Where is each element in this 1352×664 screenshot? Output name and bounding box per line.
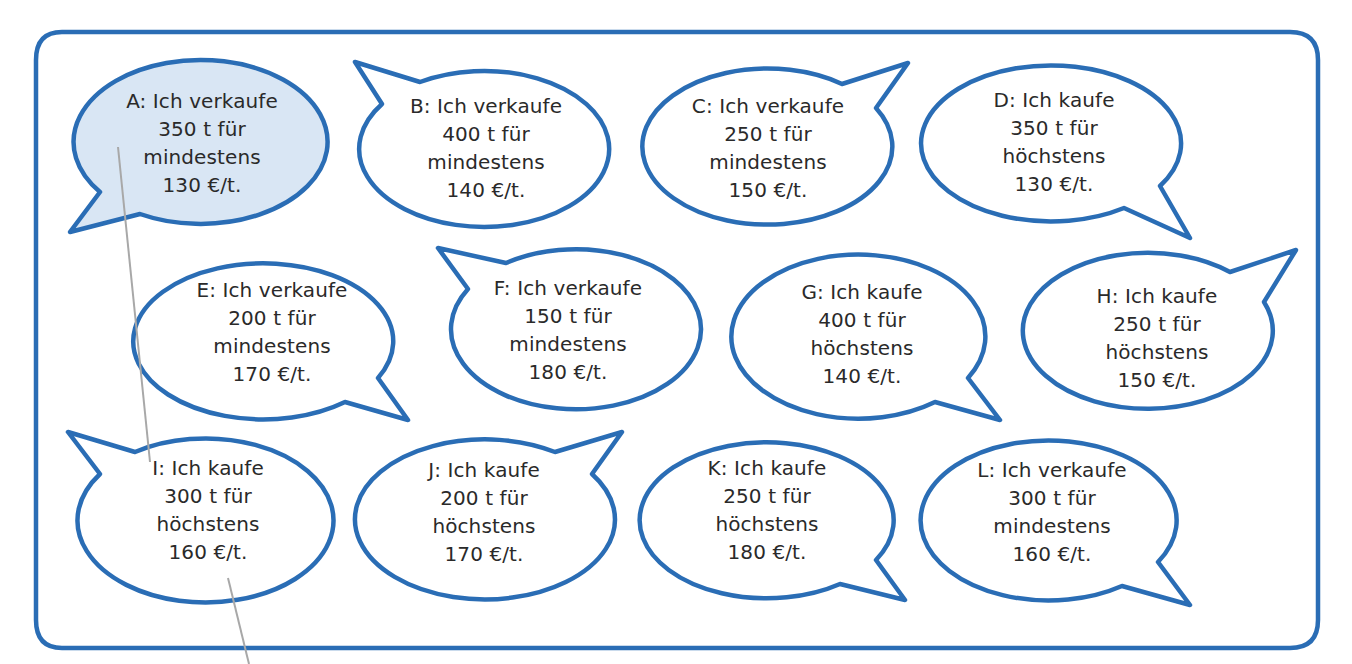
bubble-a-price: 130 €/t. xyxy=(126,171,278,199)
bubble-e-amount: 200 t für xyxy=(196,304,347,332)
bubble-f-qualifier: mindestens xyxy=(494,330,642,358)
bubble-g-qualifier: höchstens xyxy=(801,334,922,362)
bubble-a-label: A: Ich verkaufe xyxy=(126,87,278,115)
bubble-f-label: F: Ich verkaufe xyxy=(494,274,642,302)
bubble-g-label: G: Ich kaufe xyxy=(801,278,922,306)
bubble-i-price: 160 €/t. xyxy=(152,538,264,566)
bubble-g-text: G: Ich kaufe 400 t für höchstens 140 €/t… xyxy=(801,278,922,390)
bubble-k-text: K: Ich kaufe 250 t für höchstens 180 €/t… xyxy=(708,454,827,566)
bubble-b-label: B: Ich verkaufe xyxy=(410,92,562,120)
bubble-i-qualifier: höchstens xyxy=(152,510,264,538)
bubble-e-qualifier: mindestens xyxy=(196,332,347,360)
bubble-b-amount: 400 t für xyxy=(410,120,562,148)
bubble-h-qualifier: höchstens xyxy=(1097,338,1218,366)
bubble-k-label: K: Ich kaufe xyxy=(708,454,827,482)
bubble-j-price: 170 €/t. xyxy=(428,540,540,568)
bubble-d-label: D: Ich kaufe xyxy=(993,86,1114,114)
bubble-l-amount: 300 t für xyxy=(977,484,1127,512)
bubble-f-text: F: Ich verkaufe 150 t für mindestens 180… xyxy=(494,274,642,386)
bubble-j-qualifier: höchstens xyxy=(428,512,540,540)
bubble-b-qualifier: mindestens xyxy=(410,148,562,176)
bubble-h-price: 150 €/t. xyxy=(1097,366,1218,394)
bubble-e-price: 170 €/t. xyxy=(196,360,347,388)
bubble-g-price: 140 €/t. xyxy=(801,362,922,390)
bubble-i-amount: 300 t für xyxy=(152,482,264,510)
bubble-d-amount: 350 t für xyxy=(993,114,1114,142)
bubble-e-label: E: Ich verkaufe xyxy=(196,276,347,304)
bubble-c-text: C: Ich verkaufe 250 t für mindestens 150… xyxy=(692,92,844,204)
bubble-k-amount: 250 t für xyxy=(708,482,827,510)
bubble-l-text: L: Ich verkaufe 300 t für mindestens 160… xyxy=(977,456,1127,568)
bubble-g-amount: 400 t für xyxy=(801,306,922,334)
bubble-e-text: E: Ich verkaufe 200 t für mindestens 170… xyxy=(196,276,347,388)
bubble-l-price: 160 €/t. xyxy=(977,540,1127,568)
bubble-l-label: L: Ich verkaufe xyxy=(977,456,1127,484)
bubble-c-price: 150 €/t. xyxy=(692,176,844,204)
bubble-a-amount: 350 t für xyxy=(126,115,278,143)
bubble-k-qualifier: höchstens xyxy=(708,510,827,538)
bubble-i-text: I: Ich kaufe 300 t für höchstens 160 €/t… xyxy=(152,454,264,566)
bubble-a-text: A: Ich verkaufe 350 t für mindestens 130… xyxy=(126,87,278,199)
bubble-i-label: I: Ich kaufe xyxy=(152,454,264,482)
bubble-h-text: H: Ich kaufe 250 t für höchstens 150 €/t… xyxy=(1097,282,1218,394)
bubble-j-text: J: Ich kaufe 200 t für höchstens 170 €/t… xyxy=(428,456,540,568)
bubble-a-qualifier: mindestens xyxy=(126,143,278,171)
bubble-f-amount: 150 t für xyxy=(494,302,642,330)
bubble-b-text: B: Ich verkaufe 400 t für mindestens 140… xyxy=(410,92,562,204)
bubble-d-text: D: Ich kaufe 350 t für höchstens 130 €/t… xyxy=(993,86,1114,198)
bubble-l-qualifier: mindestens xyxy=(977,512,1127,540)
bubble-k-price: 180 €/t. xyxy=(708,538,827,566)
bubble-d-price: 130 €/t. xyxy=(993,170,1114,198)
bubble-c-label: C: Ich verkaufe xyxy=(692,92,844,120)
bubble-d-qualifier: höchstens xyxy=(993,142,1114,170)
bubble-b-price: 140 €/t. xyxy=(410,176,562,204)
bubble-j-amount: 200 t für xyxy=(428,484,540,512)
bubble-f-price: 180 €/t. xyxy=(494,358,642,386)
market-offers-panel: A: Ich verkaufe 350 t für mindestens 130… xyxy=(0,0,1352,664)
bubble-j-label: J: Ich kaufe xyxy=(428,456,540,484)
bubble-h-label: H: Ich kaufe xyxy=(1097,282,1218,310)
bubble-h-amount: 250 t für xyxy=(1097,310,1218,338)
bubble-c-amount: 250 t für xyxy=(692,120,844,148)
bubble-c-qualifier: mindestens xyxy=(692,148,844,176)
